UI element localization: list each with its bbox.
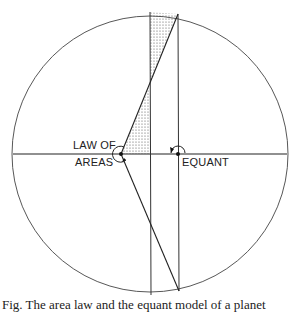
label-areas: AREAS xyxy=(75,156,113,168)
sun-point xyxy=(119,152,123,156)
equant-point xyxy=(176,152,180,156)
figure-caption: Fig. The area law and the equant model o… xyxy=(2,297,266,313)
label-equant: EQUANT xyxy=(182,156,229,168)
label-law-of: LAW OF xyxy=(73,139,116,151)
radius-line-lower xyxy=(121,154,179,291)
